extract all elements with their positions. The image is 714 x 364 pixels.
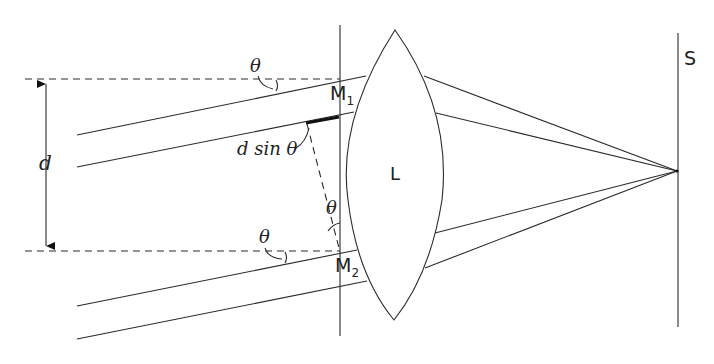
angle-arc-bottom	[285, 252, 287, 263]
d-label: d	[39, 151, 52, 175]
screen-label: S	[684, 47, 696, 69]
d-sin-theta-text: d sin θ	[237, 138, 297, 159]
angle-leader-bottom	[265, 248, 282, 259]
ray-3-outgoing	[435, 171, 677, 233]
focus-point	[675, 169, 678, 172]
lens-label: L	[390, 163, 400, 184]
d-sin-theta-label: d sin θ	[237, 138, 297, 159]
m1-subscript: 1	[346, 94, 354, 108]
ray-1-incoming	[77, 76, 366, 135]
ray-2-incoming	[77, 112, 354, 167]
m1-letter: M	[330, 82, 346, 104]
ray-4-outgoing	[425, 171, 677, 268]
theta-label-mid: θ	[326, 197, 337, 218]
m2-letter: M	[335, 254, 351, 276]
angle-arc-top	[276, 80, 278, 91]
ray-3-incoming	[77, 250, 357, 306]
theta-label-top: θ	[250, 55, 261, 76]
m2-subscript: 2	[351, 266, 359, 280]
wavefront-dashed	[307, 124, 340, 252]
diffraction-diagram	[0, 0, 714, 364]
ray-2-outgoing	[436, 113, 677, 171]
theta-label-bottom: θ	[259, 226, 270, 247]
m1-label: M1	[330, 82, 354, 108]
dsin-leader	[296, 128, 309, 148]
ray-4-incoming	[77, 281, 367, 339]
m2-label: M2	[335, 254, 359, 280]
ray-1-outgoing	[424, 76, 677, 171]
angle-leader-top	[258, 76, 273, 89]
